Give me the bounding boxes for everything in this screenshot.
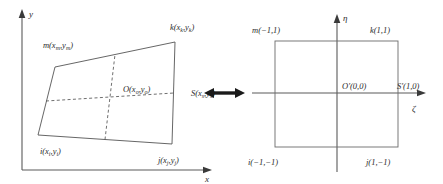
label-k-prime: k(1,1) bbox=[370, 25, 390, 35]
label-j-prime: j(1,−1) bbox=[365, 157, 391, 167]
label-m: m(xm,ym) bbox=[28, 40, 84, 51]
right-panel-axes bbox=[252, 14, 426, 172]
label-i-prime: i(−1,−1) bbox=[248, 157, 278, 167]
figure-canvas: m(xm,ym) k(xk,yk) i(xi,yi) j(xj,yj) O(xo… bbox=[0, 0, 443, 184]
x-axis-arrowhead bbox=[203, 167, 212, 174]
label-k: k(xk,yk) bbox=[155, 22, 205, 33]
label-y-axis: y bbox=[28, 9, 33, 19]
label-O: O(xo,yo) bbox=[108, 84, 161, 95]
label-j: j(xj,yj) bbox=[143, 155, 190, 166]
figure-root: m(xm,ym) k(xk,yk) i(xi,yi) j(xj,yj) O(xo… bbox=[0, 0, 443, 184]
label-zeta-axis: ζ bbox=[412, 104, 417, 114]
label-x-axis: x bbox=[204, 174, 209, 184]
eta-axis-arrowhead bbox=[334, 14, 341, 23]
label-m-prime: m(−1,1) bbox=[252, 25, 280, 35]
label-eta-axis: η bbox=[343, 13, 348, 23]
label-S-prime: S′(1,0) bbox=[397, 81, 420, 91]
label-O-prime: O′(0,0) bbox=[342, 81, 366, 91]
label-i: i(xi,yi) bbox=[25, 146, 72, 157]
y-axis-arrowhead bbox=[19, 9, 26, 18]
